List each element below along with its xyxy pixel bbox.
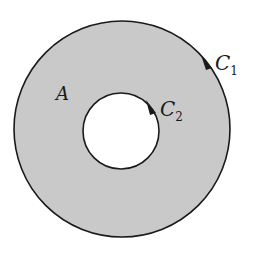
label-region-a: A <box>54 83 69 104</box>
region-a <box>14 21 230 237</box>
label-c2-sub: 2 <box>175 110 183 124</box>
label-c1-main: C <box>215 51 230 75</box>
label-c1: C1 <box>215 51 238 78</box>
label-c1-sub: 1 <box>230 64 238 78</box>
label-c2-main: C <box>160 97 175 121</box>
annulus-diagram: A C1 C2 <box>0 0 254 257</box>
